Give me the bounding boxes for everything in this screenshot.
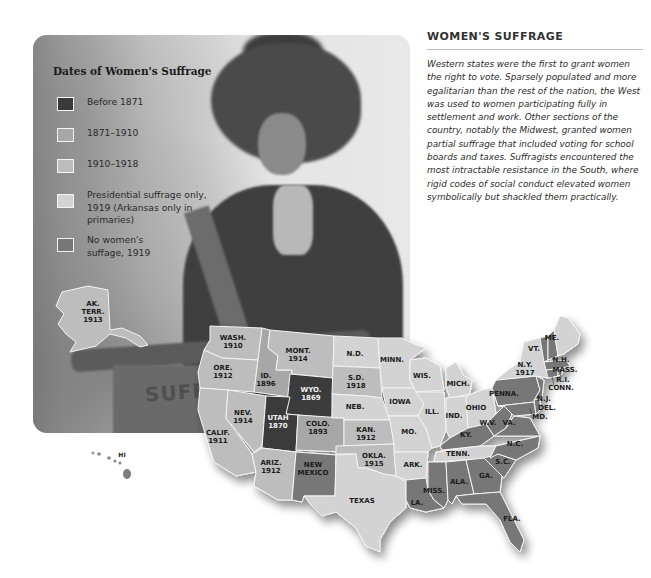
svg-text:1910: 1910 (223, 342, 243, 350)
svg-text:ME.: ME. (545, 334, 559, 342)
svg-text:S.D.: S.D. (348, 374, 364, 382)
svg-text:NEV.: NEV. (234, 409, 252, 417)
svg-text:OKLA.: OKLA. (362, 452, 386, 460)
svg-text:NEB.: NEB. (346, 403, 365, 411)
state-alaska: AK. TERR. 1913 (56, 286, 148, 352)
svg-text:TERR.: TERR. (81, 308, 104, 316)
svg-text:N.J.: N.J. (537, 395, 551, 403)
svg-text:WASH.: WASH. (220, 334, 246, 342)
svg-text:N.C.: N.C. (507, 440, 523, 448)
svg-text:LA.: LA. (411, 499, 424, 507)
svg-text:IND.: IND. (446, 412, 463, 420)
svg-text:MICH.: MICH. (446, 380, 469, 388)
svg-text:1869: 1869 (301, 394, 321, 402)
svg-text:1912: 1912 (213, 372, 233, 380)
svg-text:ORE.: ORE. (214, 364, 233, 372)
svg-text:NEW: NEW (304, 461, 323, 469)
svg-text:MINN.: MINN. (380, 356, 404, 364)
svg-text:1911: 1911 (208, 437, 228, 445)
svg-text:1912: 1912 (356, 434, 376, 442)
svg-text:MONT.: MONT. (285, 347, 310, 355)
svg-text:1893: 1893 (308, 428, 328, 436)
svg-text:1913: 1913 (83, 316, 103, 324)
svg-text:ARK.: ARK. (404, 461, 423, 469)
svg-text:1918: 1918 (346, 382, 366, 390)
svg-text:AK.: AK. (86, 300, 100, 308)
svg-text:MD.: MD. (532, 413, 547, 421)
svg-text:R.I.: R.I. (556, 376, 569, 384)
svg-text:WYO.: WYO. (301, 386, 322, 394)
svg-text:CALIF.: CALIF. (206, 429, 230, 437)
svg-text:TENN.: TENN. (446, 450, 470, 458)
svg-text:ARIZ.: ARIZ. (260, 459, 281, 467)
svg-text:CONN.: CONN. (548, 384, 573, 392)
svg-text:1912: 1912 (261, 467, 281, 475)
svg-text:HI: HI (118, 451, 125, 458)
svg-text:IOWA: IOWA (389, 398, 411, 406)
svg-text:KY.: KY. (460, 431, 472, 439)
svg-text:FLA.: FLA. (503, 515, 520, 523)
svg-text:ID.: ID. (260, 372, 271, 380)
svg-text:MASS.: MASS. (553, 366, 578, 374)
svg-text:N.Y.: N.Y. (517, 361, 532, 369)
svg-text:S.C.: S.C. (495, 458, 511, 466)
svg-text:VA.: VA. (502, 419, 515, 427)
svg-text:N.H.: N.H. (552, 356, 569, 364)
svg-text:W.V.: W.V. (480, 419, 497, 427)
svg-text:DEL.: DEL. (538, 404, 556, 412)
svg-text:UTAH: UTAH (267, 414, 288, 422)
svg-text:ILL.: ILL. (425, 408, 439, 416)
state-hawaii: HI (92, 451, 132, 479)
svg-text:TEXAS: TEXAS (349, 497, 374, 505)
svg-text:COLO.: COLO. (306, 420, 330, 428)
svg-text:GA.: GA. (479, 472, 493, 480)
svg-text:N.D.: N.D. (347, 350, 364, 358)
svg-text:MEXICO: MEXICO (298, 469, 329, 477)
svg-text:PENNA.: PENNA. (489, 390, 519, 398)
svg-text:1870: 1870 (268, 422, 288, 430)
state-new-mexico (292, 452, 336, 502)
svg-text:1914: 1914 (288, 355, 308, 363)
svg-text:1917: 1917 (515, 369, 535, 377)
svg-text:1914: 1914 (233, 417, 253, 425)
svg-text:MISS.: MISS. (423, 487, 445, 495)
svg-text:1896: 1896 (256, 380, 276, 388)
svg-text:KAN.: KAN. (356, 426, 375, 434)
svg-text:1915: 1915 (364, 460, 384, 468)
svg-text:MO.: MO. (401, 428, 416, 436)
contiguous-us (198, 316, 580, 552)
svg-text:WIS.: WIS. (413, 372, 431, 380)
us-suffrage-map: AK. TERR. 1913 HI (0, 0, 651, 578)
svg-text:ALA.: ALA. (450, 478, 468, 486)
svg-text:VT.: VT. (528, 345, 540, 353)
svg-text:OHIO: OHIO (466, 404, 486, 412)
